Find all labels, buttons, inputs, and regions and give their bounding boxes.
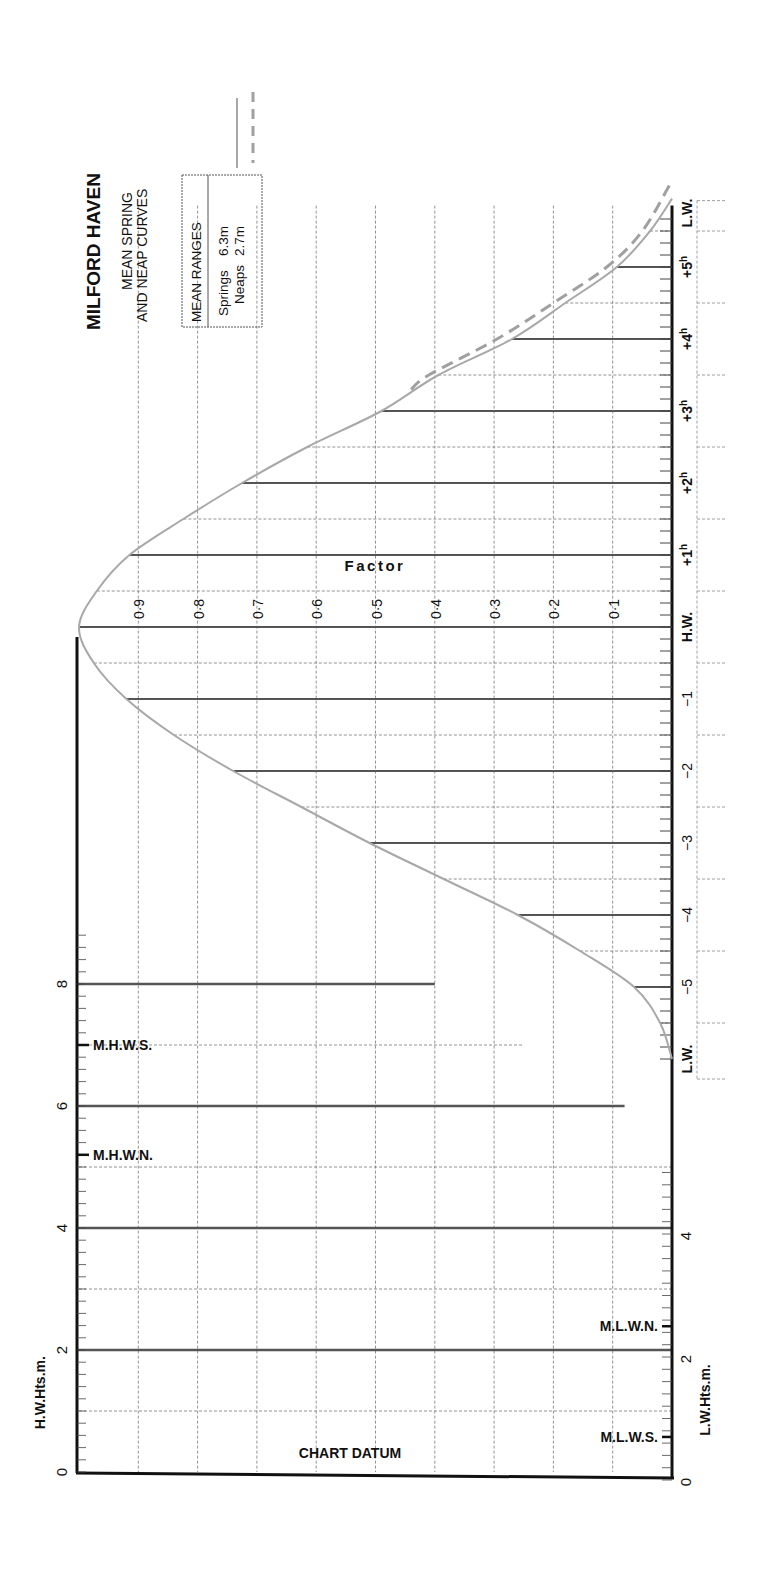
time-tick-label: −1 xyxy=(679,691,695,707)
factor-tick-label: 0·1 xyxy=(606,599,622,619)
hw-height-label: 4 xyxy=(53,1224,70,1232)
time-tick-label: +4h xyxy=(678,328,695,350)
hw-height-label: 2 xyxy=(53,1346,70,1354)
hw-marker-label: M.H.W.S. xyxy=(93,1037,152,1053)
time-tick-label: +3h xyxy=(678,400,695,422)
legend-neaps-value: 2.7m xyxy=(232,226,247,256)
factor-tick-label: 0·4 xyxy=(428,599,444,619)
chart-title: MILFORD HAVEN xyxy=(83,173,104,330)
chart-subtitle-line-2: AND NEAP CURVES xyxy=(134,189,150,322)
time-tick-label: −5 xyxy=(679,979,695,995)
hw-height-label: 6 xyxy=(53,1102,70,1110)
grid-lines xyxy=(79,201,727,1472)
time-tick-label: L.W. xyxy=(679,1045,695,1074)
factor-tick-label: 0·3 xyxy=(487,599,503,619)
lw-height-axis-label: L.W.Hts.m. xyxy=(697,1364,713,1436)
time-tick-label: −2 xyxy=(679,763,695,779)
lw-end-label: L.W. xyxy=(679,199,695,228)
chart-datum-line xyxy=(76,1473,674,1478)
factor-tick-label: 0·2 xyxy=(546,599,562,619)
lw-height-label: 4 xyxy=(677,1232,694,1240)
legend-springs-label: Springs xyxy=(216,270,231,316)
legend-box: MEAN RANGES Springs 6.3m Neaps 2.7m xyxy=(182,92,262,327)
lw-marker-label: M.L.W.S. xyxy=(600,1429,658,1445)
legend-neaps: Neaps 2.7m xyxy=(232,226,247,304)
lw-height-label: 2 xyxy=(677,1355,694,1363)
hw-marker-label: M.H.W.N. xyxy=(93,1147,153,1163)
legend-springs: Springs 6.3m xyxy=(216,226,231,316)
factor-tick-label: 0·6 xyxy=(309,599,325,619)
neaps-curve xyxy=(411,181,672,390)
hour-and-height-lines xyxy=(77,267,672,1350)
factor-tick-label: 0·9 xyxy=(131,599,147,619)
legend-neaps-label: Neaps xyxy=(232,265,247,304)
lw-height-label: 0 xyxy=(677,1478,694,1486)
time-tick-label: −4 xyxy=(679,907,695,923)
legend-title: MEAN RANGES xyxy=(189,222,204,322)
hw-height-label: 8 xyxy=(53,980,70,988)
time-tick-label: +1h xyxy=(678,544,695,566)
title-block: MILFORD HAVEN MEAN SPRING AND NEAP CURVE… xyxy=(83,173,150,330)
chart-subtitle-line-1: MEAN SPRING xyxy=(119,192,135,290)
lw-marker-label: M.L.W.N. xyxy=(600,1318,658,1334)
chart-datum-label: CHART DATUM xyxy=(299,1445,401,1461)
hw-height-axis-label: H.W.Hts.m. xyxy=(32,1356,48,1429)
time-tick-label: H.W. xyxy=(679,612,695,642)
factor-tick-label: 0·7 xyxy=(250,599,266,619)
factor-tick-label: 0·5 xyxy=(369,599,385,619)
legend-springs-value: 6.3m xyxy=(216,226,231,256)
factor-axis-label: Factor xyxy=(345,557,406,574)
time-tick-label: +2h xyxy=(678,472,695,494)
time-tick-label: +5h xyxy=(678,256,695,278)
hw-height-label: 0 xyxy=(53,1468,70,1476)
factor-tick-label: 0·8 xyxy=(191,599,207,619)
time-tick-label: −3 xyxy=(679,835,695,851)
tidal-curve-chart: 0·10·20·30·40·50·60·70·80·9FactorL.W.−5−… xyxy=(0,0,764,1583)
